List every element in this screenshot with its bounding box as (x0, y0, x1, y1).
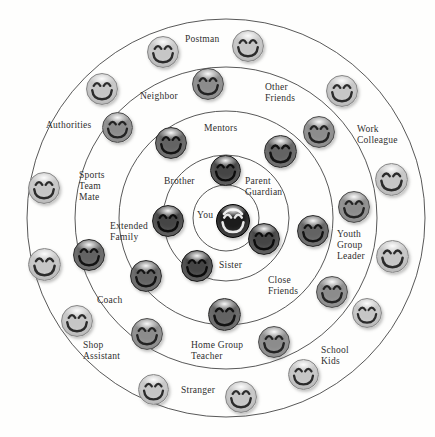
smiley-face-glyph (376, 164, 407, 195)
smiley-face-icon (131, 318, 163, 350)
smiley-face-glyph (217, 205, 249, 237)
smiley-face-glyph (339, 192, 369, 222)
smiley-face-glyph (298, 216, 328, 246)
smiley-face-icon (155, 127, 187, 159)
label-you: You (197, 210, 213, 221)
smiley-face-icon (138, 374, 169, 405)
smiley-face-glyph (304, 117, 334, 147)
smiley-face-glyph (62, 306, 92, 336)
smiley-face-icon (73, 239, 105, 271)
label-youth-group-leader: Youth Group Leader (337, 229, 365, 262)
label-sister: Sister (219, 260, 242, 271)
smiley-face-icon (376, 240, 409, 273)
smiley-face-glyph (87, 74, 117, 104)
label-brother: Brother (164, 176, 195, 187)
smiley-face-icon (352, 298, 382, 328)
label-work-colleague: Work Colleague (357, 124, 398, 146)
smiley-face-glyph (153, 206, 183, 236)
smiley-face-icon (147, 36, 179, 68)
smiley-face-icon (210, 155, 241, 186)
smiley-face-glyph (249, 224, 279, 254)
smiley-face-icon (326, 75, 358, 107)
smiley-face-glyph (74, 240, 104, 270)
smiley-face-glyph (377, 241, 408, 272)
smiley-face-glyph (148, 37, 178, 67)
smiley-face-icon (152, 205, 184, 237)
smiley-face-glyph (265, 136, 296, 167)
smiley-face-glyph (103, 113, 132, 142)
smiley-face-icon (338, 191, 370, 223)
smiley-face-glyph (317, 277, 347, 307)
label-mentors: Mentors (204, 123, 237, 134)
label-parent-guardian: Parent Guardian (245, 176, 282, 198)
label-coach: Coach (97, 295, 123, 306)
smiley-face-icon (248, 223, 280, 255)
smiley-face-icon (375, 163, 408, 196)
label-stranger: Stranger (181, 385, 215, 396)
smiley-face-icon (264, 135, 297, 168)
smiley-face-glyph (29, 173, 59, 203)
smiley-face-glyph (226, 382, 256, 412)
label-neighbor: Neighbor (140, 91, 178, 102)
smiley-face-glyph (327, 76, 357, 106)
label-other-friends: Other Friends (265, 82, 295, 104)
smiley-face-icon (208, 298, 241, 331)
smiley-face-icon (258, 326, 290, 358)
smiley-face-icon (303, 116, 335, 148)
smiley-face-icon (181, 250, 213, 282)
label-extended-family: Extended Family (110, 221, 148, 243)
smiley-face-glyph (233, 31, 263, 61)
smiley-face-glyph (139, 375, 168, 404)
smiley-face-icon (28, 248, 61, 281)
smiley-face-glyph (193, 69, 223, 99)
label-authorities: Authorities (46, 120, 92, 131)
label-sports-team-mate: Sports Team Mate (79, 170, 105, 203)
smiley-face-icon (28, 172, 60, 204)
smiley-face-icon (288, 359, 319, 390)
relationship-circles-diagram: YouBrotherParent GuardianSisterMentorsEx… (0, 0, 435, 437)
label-shop-assistant: Shop Assistant (83, 340, 120, 362)
label-close-friends: Close Friends (268, 275, 298, 297)
smiley-face-glyph (209, 299, 240, 330)
label-postman: Postman (185, 34, 219, 45)
smiley-face-icon (297, 215, 329, 247)
smiley-face-icon (192, 68, 224, 100)
smiley-face-icon (232, 30, 264, 62)
smiley-face-glyph (289, 360, 318, 389)
smiley-face-icon (86, 73, 118, 105)
label-home-group-teacher: Home Group Teacher (191, 340, 243, 362)
smiley-face-glyph (29, 249, 60, 280)
smiley-face-glyph (353, 299, 381, 327)
smiley-face-icon (61, 305, 93, 337)
smiley-face-glyph (182, 251, 212, 281)
smiley-face-icon (130, 260, 162, 292)
smiley-face-glyph (131, 261, 161, 291)
smiley-face-glyph (211, 156, 240, 185)
smiley-face-icon (102, 112, 133, 143)
smiley-face-glyph (132, 319, 162, 349)
smiley-face-icon (225, 381, 257, 413)
smiley-face-icon (216, 204, 250, 238)
smiley-face-glyph (156, 128, 186, 158)
smiley-face-glyph (259, 327, 289, 357)
label-school-kids: School Kids (321, 345, 349, 367)
smiley-face-icon (316, 276, 348, 308)
